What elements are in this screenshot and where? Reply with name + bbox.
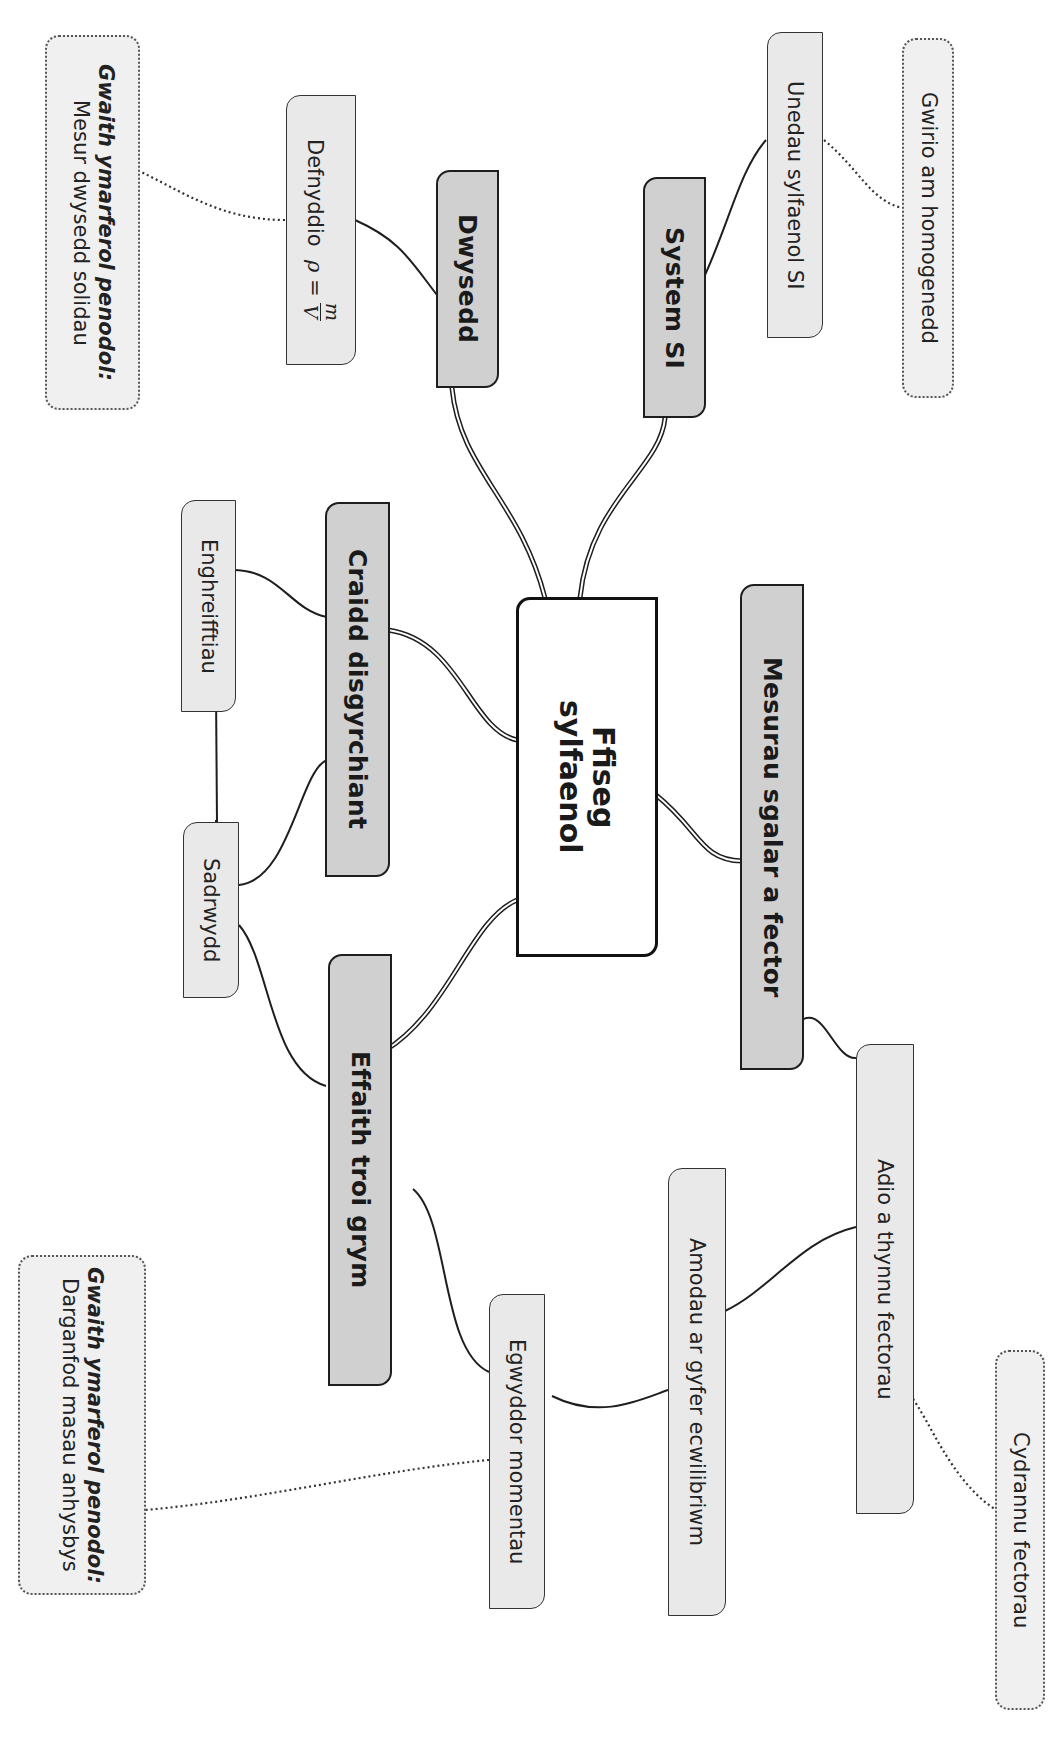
note-heading: Gwaith ymarferol penodol: <box>82 1267 107 1584</box>
branch-mesurau-sgalar-fector[interactable]: Mesurau sgalar a fector <box>740 584 804 1070</box>
branch-system-si[interactable]: System SI <box>643 177 706 418</box>
branch-label: Dwysedd <box>453 214 482 343</box>
node-label: Amodau ar gyfer ecwilibriwm <box>685 1238 709 1546</box>
node-amodau-ecwilibriwm[interactable]: Amodau ar gyfer ecwilibriwm <box>668 1168 726 1616</box>
node-label: Adio a thynnu fectorau <box>873 1159 897 1400</box>
note-cydrannu: Cydrannu fectorau <box>995 1350 1045 1710</box>
node-sadrwydd[interactable]: Sadrwydd <box>183 822 239 998</box>
note-practical-density: Gwaith ymarferol penodol:Mesur dwysedd s… <box>45 35 140 410</box>
branch-dwysedd[interactable]: Dwysedd <box>436 170 499 388</box>
branch-label: Effaith troi grym <box>346 1051 375 1288</box>
node-label: Enghreifftiau <box>197 539 221 674</box>
node-egwyddor-momentau[interactable]: Egwyddor momentau <box>489 1294 545 1609</box>
node-label: Defnyddio <box>303 139 327 247</box>
central-topic[interactable]: Ffisegsylfaenol <box>516 597 658 957</box>
node-enghreifftiau[interactable]: Enghreifftiau <box>181 500 236 712</box>
note-body: Darganfod masau anhysbys <box>58 1278 82 1572</box>
note-practical-masses: Gwaith ymarferol penodol:Darganfod masau… <box>18 1255 146 1595</box>
branch-label: System SI <box>660 227 689 369</box>
note-body: Cydrannu fectorau <box>1007 1432 1032 1628</box>
node-label: Egwyddor momentau <box>505 1339 529 1564</box>
node-adio-thynnu[interactable]: Adio a thynnu fectorau <box>856 1044 914 1514</box>
node-defnyddio[interactable]: Defnyddio ρ = mV <box>286 95 356 365</box>
density-fraction: mV <box>301 303 342 321</box>
note-homogenedd: Gwirio am homogenedd <box>902 38 954 398</box>
note-body: Mesur dwysedd solidau <box>69 100 93 346</box>
node-label: Sadrwydd <box>199 858 223 962</box>
node-label: Unedau sylfaenol SI <box>783 81 807 289</box>
node-unedau-si[interactable]: Unedau sylfaenol SI <box>767 32 823 338</box>
branch-label: Craidd disgyrchiant <box>343 549 372 829</box>
branch-craidd-disgyrchiant[interactable]: Craidd disgyrchiant <box>325 502 390 877</box>
branch-effaith-troi-grym[interactable]: Effaith troi grym <box>328 954 392 1386</box>
note-body: Gwirio am homogenedd <box>915 92 940 344</box>
formula-lhs: ρ = <box>303 260 327 297</box>
note-heading: Gwaith ymarferol penodol: <box>93 64 118 381</box>
central-topic-label: Ffisegsylfaenol <box>554 700 620 854</box>
branch-label: Mesurau sgalar a fector <box>758 657 787 998</box>
